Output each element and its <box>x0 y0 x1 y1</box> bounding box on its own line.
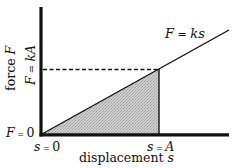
y-origin-rhs: 0 <box>26 125 34 140</box>
y-tick-top-rhs: kA <box>23 45 38 62</box>
curve-label-rhs: ks <box>190 26 205 41</box>
x-axis-label-word: displacement <box>79 150 168 165</box>
y-axis-label-word: force <box>3 55 18 92</box>
y-tick-F-equals-kA: F = kA <box>25 45 38 85</box>
y-origin-eq: = <box>15 130 27 139</box>
x-axis-label-var: s <box>168 150 174 165</box>
y-axis-label: force F <box>5 46 18 91</box>
y-tick-top-eq: = <box>26 62 37 77</box>
y-tick-top-lhs: F <box>23 76 38 85</box>
curve-label: F = ks <box>165 27 205 40</box>
y-origin-label: F = 0 <box>6 127 34 140</box>
curve-label-lhs: F <box>165 26 174 41</box>
x-origin-label: s = 0 <box>34 141 60 154</box>
x-axis-label: displacement s <box>79 152 174 165</box>
curve-label-eq: = <box>174 28 190 41</box>
y-axis-label-var: F <box>3 46 18 55</box>
x-origin-eq: = <box>40 144 52 153</box>
y-origin-lhs: F <box>6 125 15 140</box>
x-origin-rhs: 0 <box>52 139 60 154</box>
